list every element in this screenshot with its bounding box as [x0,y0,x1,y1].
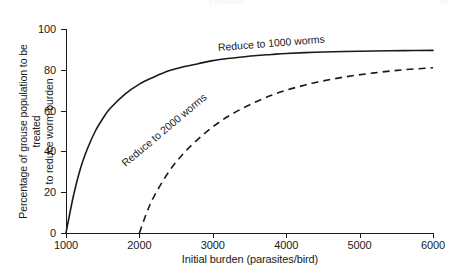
x-axis-tick-label: 2000 [109,240,169,251]
y-axis-tick [61,151,66,152]
x-axis-tick-label: 6000 [403,240,451,251]
y-axis-tick-label: 20 [14,187,56,198]
figure: of predation 95 Percentage of grouse pop… [0,0,451,274]
y-axis-tick-label: 100 [14,24,56,35]
y-axis-tick [61,70,66,71]
x-axis-tick-label: 5000 [330,240,390,251]
x-axis-tick [66,233,67,238]
y-axis-tick-label: 40 [14,146,56,157]
y-axis-tick-label: 60 [14,106,56,117]
series-reduce-to-1000-worms-line [66,50,433,233]
y-axis-tick-label: 80 [14,65,56,76]
x-axis-tick-label: 3000 [183,240,243,251]
x-axis-tick-label: 1000 [36,240,96,251]
x-axis-tick [286,233,287,238]
y-axis-tick [61,192,66,193]
x-axis-tick [139,233,140,238]
y-axis-tick-label: 0 [14,228,56,239]
y-axis-tick [61,111,66,112]
y-axis-tick [61,29,66,30]
series-reduce-to-2000-worms-line [139,68,433,233]
x-axis-tick [213,233,214,238]
x-axis-tick [360,233,361,238]
x-axis-label: Initial burden (parasites/bird) [66,253,434,265]
x-axis-tick-label: 4000 [256,240,316,251]
x-axis-tick [433,233,434,238]
